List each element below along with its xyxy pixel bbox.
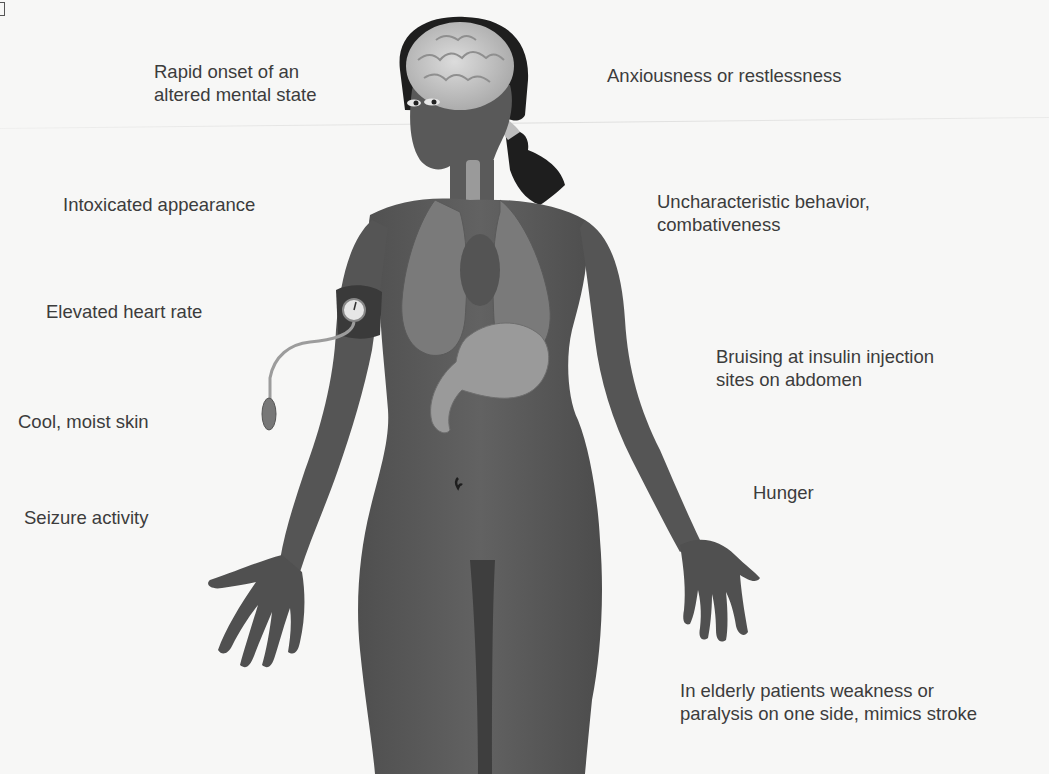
label-anxiousness: Anxiousness or restlessness	[607, 64, 841, 87]
label-elderly: In elderly patients weakness or paralysi…	[680, 679, 977, 725]
label-line: Intoxicated appearance	[63, 193, 255, 216]
label-line: Uncharacteristic behavior,	[657, 190, 870, 213]
label-line: Cool, moist skin	[18, 410, 149, 433]
label-line: Anxiousness or restlessness	[607, 64, 841, 87]
label-skin: Cool, moist skin	[18, 410, 149, 433]
label-line: sites on abdomen	[716, 368, 934, 391]
label-line: Bruising at insulin injection	[716, 345, 934, 368]
label-line: combativeness	[657, 213, 870, 236]
arm-right	[580, 220, 700, 552]
brain	[406, 22, 514, 110]
label-hunger: Hunger	[753, 481, 814, 504]
label-line: altered mental state	[154, 83, 316, 106]
heart	[460, 234, 500, 306]
label-heart-rate: Elevated heart rate	[46, 300, 202, 323]
label-intoxicated: Intoxicated appearance	[63, 193, 255, 216]
label-line: Hunger	[753, 481, 814, 504]
label-line: paralysis on one side, mimics stroke	[680, 702, 977, 725]
label-line: Rapid onset of an	[154, 60, 316, 83]
hand-left	[208, 555, 304, 667]
label-bruising: Bruising at insulin injection sites on a…	[716, 345, 934, 391]
label-seizure: Seizure activity	[24, 506, 148, 529]
label-line: Elevated heart rate	[46, 300, 202, 323]
label-line: In elderly patients weakness or	[680, 679, 977, 702]
bp-bulb	[262, 398, 276, 430]
label-line: Seizure activity	[24, 506, 148, 529]
label-rapid-onset: Rapid onset of an altered mental state	[154, 60, 316, 106]
label-behavior: Uncharacteristic behavior, combativeness	[657, 190, 870, 236]
hand-right	[680, 540, 760, 642]
